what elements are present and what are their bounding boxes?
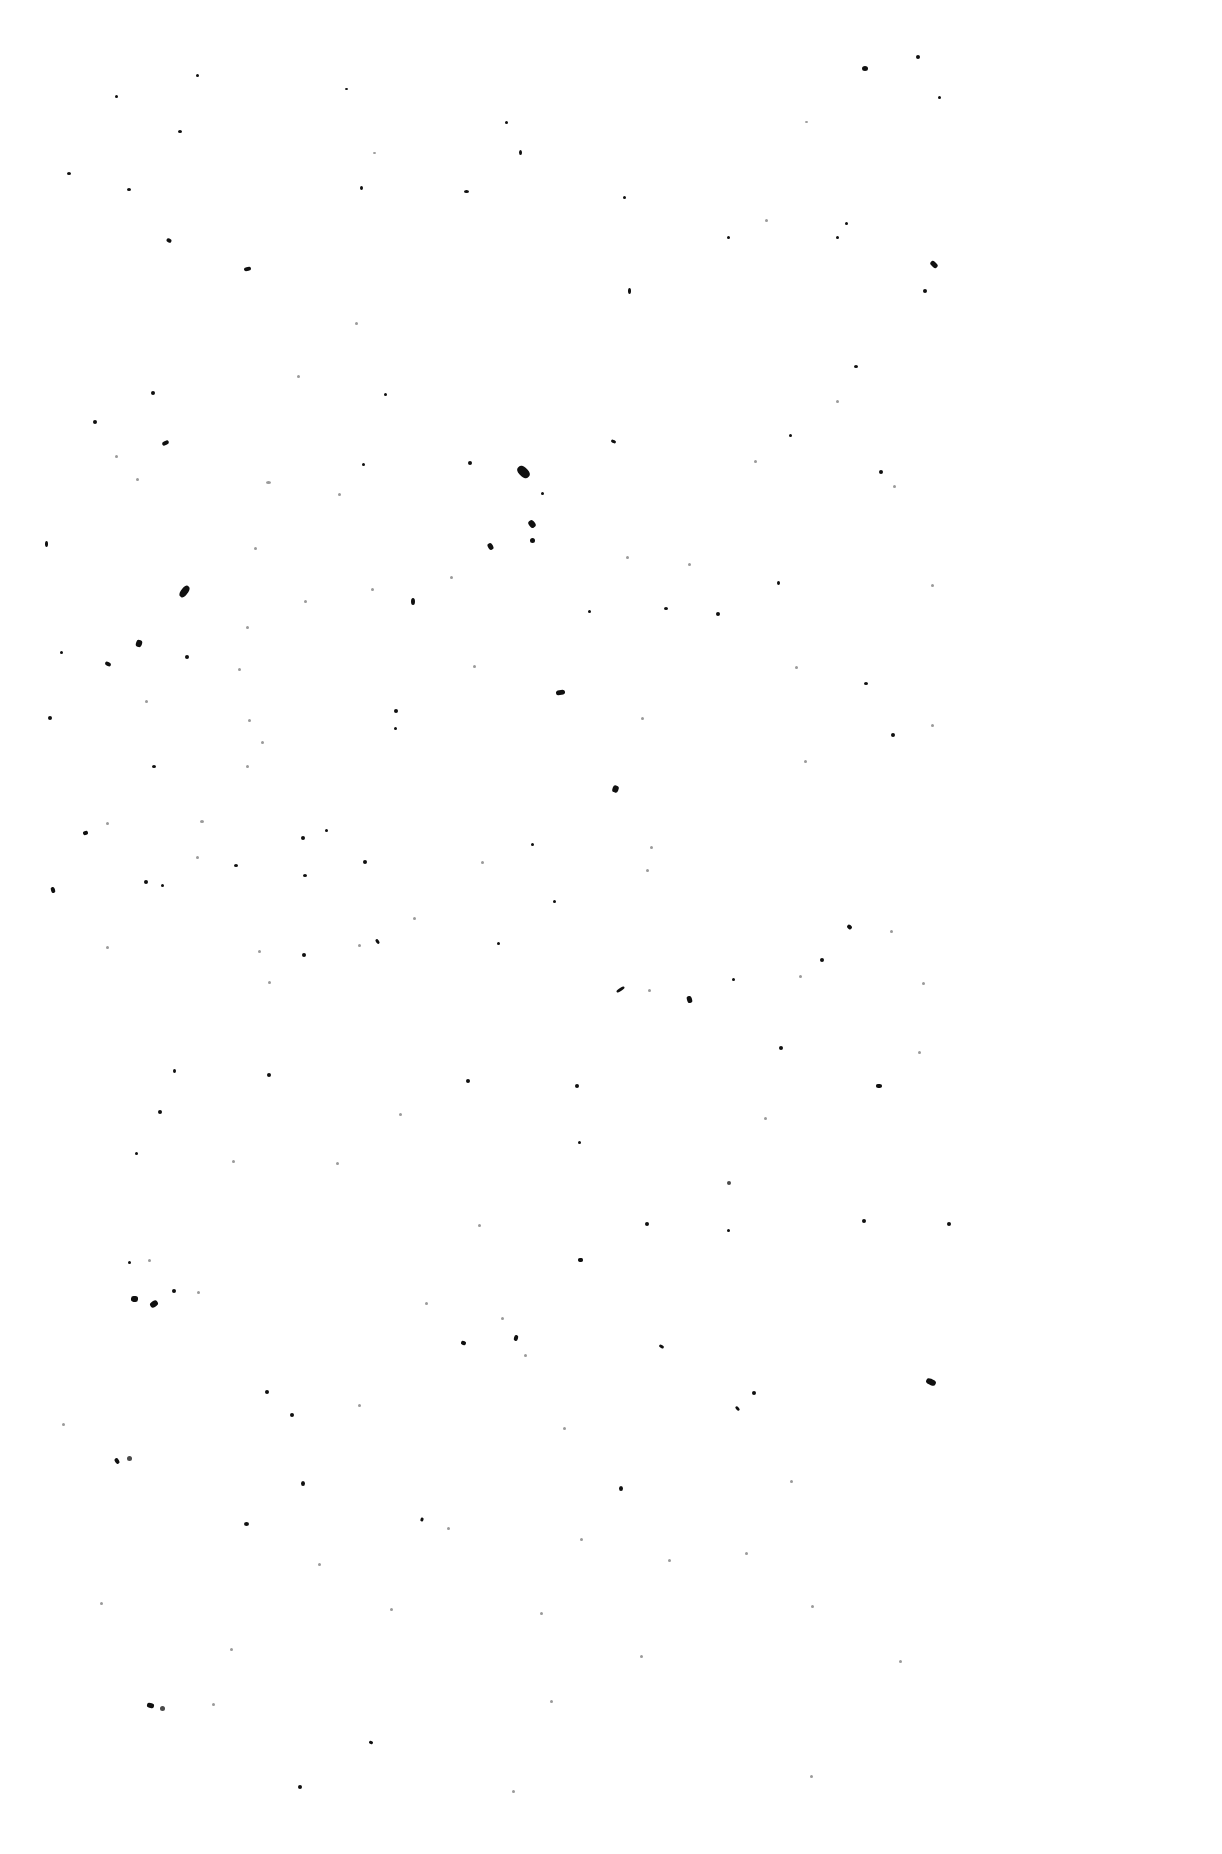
page-content-area bbox=[0, 0, 1222, 1854]
scanned-page bbox=[0, 0, 1222, 1854]
